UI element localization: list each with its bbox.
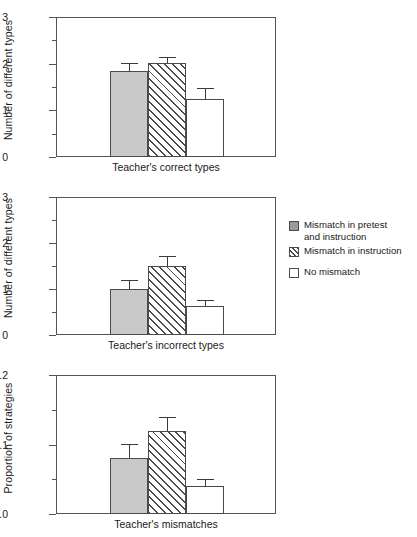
error-bar-stem — [129, 280, 130, 289]
figure-bar-chart-panels: Number of different types 0123 Teacher's… — [0, 0, 417, 537]
error-bar-cap — [159, 417, 176, 418]
error-bar-cap — [159, 57, 176, 58]
error-bar-cap — [159, 256, 176, 257]
error-bar-stem — [205, 300, 206, 307]
y-tick-label: 1 — [0, 105, 8, 115]
chart-panel-incorrect-types: Number of different types 0123 Teacher's… — [0, 180, 290, 358]
y-tick-minor — [52, 220, 56, 221]
bar-solid — [110, 71, 148, 157]
error-bar-cap — [197, 88, 214, 89]
chart-panel-mismatches: Proportion of strategies 0.00.10.2 Teach… — [0, 358, 290, 537]
gray-filled-square-icon — [289, 221, 299, 231]
y-tick-minor — [52, 479, 56, 480]
y-tick-major — [49, 243, 56, 244]
y-tick-major — [49, 157, 56, 158]
y-tick-label: 0.2 — [0, 370, 8, 380]
y-tick-minor — [52, 312, 56, 313]
error-bar-stem — [205, 88, 206, 98]
y-tick-label: 3 — [0, 12, 8, 22]
y-tick-label: 2 — [0, 238, 8, 248]
bar-open — [186, 99, 224, 157]
error-bar-cap — [197, 479, 214, 480]
chart-panel-correct-types: Number of different types 0123 Teacher's… — [0, 0, 290, 180]
y-tick-major — [49, 197, 56, 198]
legend-label: Mismatch in instruction — [304, 245, 402, 257]
x-axis-title: Teacher's mismatches — [56, 518, 276, 530]
legend: Mismatch in pretestand instructionMismat… — [289, 219, 415, 281]
error-bar-stem — [167, 256, 168, 266]
y-tick-major — [49, 445, 56, 446]
y-tick-major — [49, 64, 56, 65]
error-bar-cap — [121, 444, 138, 445]
y-tick-label: 0.0 — [0, 509, 8, 519]
legend-label: No mismatch — [304, 266, 360, 278]
y-tick-label: 0 — [0, 330, 8, 340]
x-axis-title: Teacher's correct types — [56, 161, 276, 173]
legend-label: Mismatch in pretestand instruction — [304, 219, 387, 242]
y-tick-minor — [52, 87, 56, 88]
error-bar-stem — [205, 479, 206, 487]
y-tick-major — [49, 375, 56, 376]
y-tick-major — [49, 289, 56, 290]
error-bar-cap — [197, 300, 214, 301]
y-axis-title: Number of different types — [2, 188, 18, 328]
bar-hatch — [148, 431, 186, 514]
y-tick-minor — [52, 410, 56, 411]
legend-item-solid: Mismatch in pretestand instruction — [289, 219, 415, 242]
error-bar-cap — [121, 280, 138, 281]
y-tick-label: 2 — [0, 59, 8, 69]
error-bar-stem — [129, 444, 130, 459]
y-tick-minor — [52, 134, 56, 135]
bar-solid — [110, 289, 148, 335]
bar-hatch — [148, 266, 186, 335]
bar-open — [186, 486, 224, 514]
y-axis-title: Number of different types — [2, 10, 18, 150]
y-tick-major — [49, 335, 56, 336]
error-bar-cap — [121, 63, 138, 64]
y-tick-minor — [52, 40, 56, 41]
y-tick-label: 0.1 — [0, 440, 8, 450]
bar-hatch — [148, 63, 186, 157]
y-tick-major — [49, 514, 56, 515]
error-bar-stem — [167, 417, 168, 430]
y-tick-major — [49, 110, 56, 111]
x-axis-title: Teacher's incorrect types — [56, 339, 276, 351]
bar-solid — [110, 458, 148, 514]
hatched-square-icon — [289, 247, 299, 257]
y-tick-label: 3 — [0, 192, 8, 202]
error-bar-stem — [129, 63, 130, 71]
y-tick-major — [49, 17, 56, 18]
bar-open — [186, 306, 224, 335]
white-square-icon — [289, 268, 299, 278]
y-tick-minor — [52, 266, 56, 267]
y-tick-label: 0 — [0, 152, 8, 162]
legend-item-open: No mismatch — [289, 266, 415, 278]
legend-item-hatch: Mismatch in instruction — [289, 245, 415, 257]
y-tick-label: 1 — [0, 284, 8, 294]
